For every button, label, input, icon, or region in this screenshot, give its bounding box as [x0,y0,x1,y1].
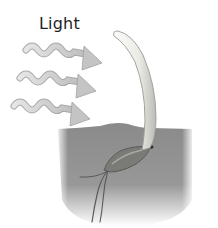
soil [56,123,194,226]
light-label: Light [39,14,80,33]
light-rays [14,46,102,126]
light-ray-arrow-2 [20,74,96,98]
phototropism-diagram: Light [0,0,218,228]
light-ray-arrow-3 [14,102,90,126]
diagram-canvas [0,0,218,228]
light-ray-arrow-1 [26,46,102,70]
